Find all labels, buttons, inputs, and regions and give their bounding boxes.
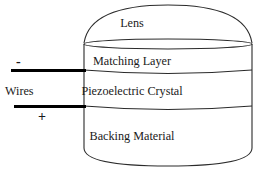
lens-label-text: Lens [120, 17, 144, 29]
negative-terminal-label: - [16, 55, 21, 69]
lens-label: Lens [0, 17, 264, 29]
positive-terminal-label: + [38, 110, 46, 124]
backing-material-label-text: Backing Material [90, 130, 175, 142]
transducer-diagram: Lens Matching Layer Piezoelectric Crysta… [0, 0, 264, 173]
piezoelectric-crystal-label: Piezoelectric Crystal [0, 85, 264, 97]
matching-layer-label: Matching Layer [0, 55, 264, 67]
wires-label: Wires [5, 85, 34, 97]
piezoelectric-crystal-label-text: Piezoelectric Crystal [81, 85, 182, 97]
cylinder-top-ellipse [84, 39, 252, 49]
matching-layer-label-text: Matching Layer [93, 55, 171, 67]
backing-material-label: Backing Material [0, 130, 264, 142]
